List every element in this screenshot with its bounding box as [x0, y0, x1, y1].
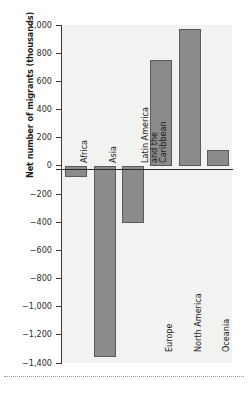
category-label: Europe [165, 324, 174, 352]
y-tick-mark [56, 25, 62, 26]
y-tick-mark [56, 222, 62, 223]
plot-area [62, 25, 232, 363]
y-tick-mark [56, 363, 62, 364]
category-label: Oceania [222, 319, 231, 352]
y-axis-title: Net number of migrants (thousands) [25, 5, 35, 185]
category-label: Africa [80, 140, 89, 163]
y-tick-mark [56, 137, 62, 138]
category-label: Latin America and the Caribbean [141, 103, 168, 163]
footer-dotted-rule [4, 376, 244, 377]
y-tick-mark [56, 306, 62, 307]
y-tick-label: 800 [0, 48, 52, 58]
y-tick-label: −600 [0, 245, 52, 255]
y-tick-mark [56, 334, 62, 335]
y-tick-label: −400 [0, 217, 52, 227]
y-tick-label: 1,000 [0, 20, 52, 30]
bar-latin-america-and-the-caribbean [122, 166, 144, 223]
y-tick-label: −1,400 [0, 358, 52, 368]
y-tick-label: −800 [0, 273, 52, 283]
y-tick-mark [56, 278, 62, 279]
y-tick-mark [56, 109, 62, 110]
y-tick-label: 0 [0, 160, 52, 170]
y-tick-label: 400 [0, 104, 52, 114]
y-tick-label: −1,000 [0, 301, 52, 311]
y-axis-line [61, 25, 62, 364]
y-tick-mark [56, 81, 62, 82]
y-tick-mark [56, 194, 62, 195]
category-label: North America [194, 293, 203, 352]
y-tick-label: 200 [0, 132, 52, 142]
bar-asia [94, 166, 116, 358]
y-tick-label: −200 [0, 189, 52, 199]
y-tick-mark [56, 53, 62, 54]
bar-north-america [179, 29, 201, 166]
zero-baseline [56, 169, 233, 170]
category-label: Asia [109, 146, 118, 163]
y-tick-mark [56, 250, 62, 251]
bar-oceania [207, 150, 229, 166]
y-tick-label: 600 [0, 76, 52, 86]
migration-bar-chart: Net number of migrants (thousands) 1,000… [0, 0, 248, 393]
y-tick-label: −1,200 [0, 329, 52, 339]
y-axis-title-wrapper: Net number of migrants (thousands) [0, 60, 20, 240]
y-tick-mark [56, 165, 62, 166]
